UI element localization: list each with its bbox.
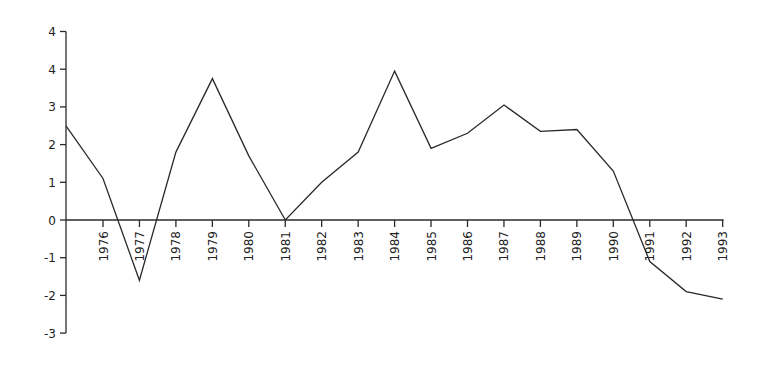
x-tick-label: 1984 — [388, 231, 402, 262]
x-tick-label: 1982 — [315, 231, 329, 262]
y-tick-label: 1 — [48, 176, 56, 190]
x-tick-label: 1993 — [716, 231, 730, 262]
x-tick-label: 1989 — [570, 231, 584, 262]
x-tick-label: 1992 — [680, 231, 694, 262]
x-tick-label: 1990 — [607, 231, 621, 262]
y-tick-label: 4 — [48, 25, 56, 39]
line-chart: 443210-1-2-3 197619771978197919801981198… — [0, 0, 765, 365]
x-tick-label: 1987 — [497, 231, 511, 262]
x-tick-label: 1978 — [169, 231, 183, 262]
x-tick-label: 1991 — [643, 231, 657, 262]
y-tick-label: -3 — [44, 327, 56, 341]
y-tick-label: 3 — [48, 100, 56, 114]
y-tick-label: -1 — [44, 251, 56, 265]
y-axis: 443210-1-2-3 — [44, 25, 66, 341]
y-tick-label: 0 — [48, 214, 56, 228]
x-tick-label: 1983 — [352, 231, 366, 262]
x-tick-label: 1985 — [425, 231, 439, 262]
x-tick-label: 1977 — [133, 231, 147, 262]
x-axis: 1976197719781979198019811982198319841985… — [66, 220, 730, 262]
y-tick-label: 4 — [48, 63, 56, 77]
x-tick-label: 1979 — [206, 231, 220, 262]
y-tick-label: 2 — [48, 138, 56, 152]
data-line — [66, 71, 723, 299]
x-tick-label: 1980 — [242, 231, 256, 262]
x-tick-label: 1981 — [279, 231, 293, 262]
x-tick-label: 1976 — [97, 231, 111, 262]
x-tick-label: 1988 — [534, 231, 548, 262]
x-tick-label: 1986 — [461, 231, 475, 262]
y-tick-label: -2 — [44, 289, 56, 303]
